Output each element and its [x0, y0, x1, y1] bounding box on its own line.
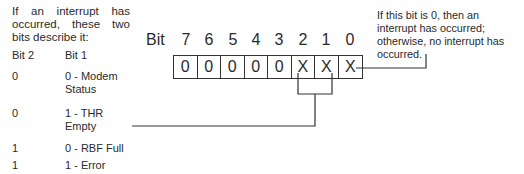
- bits-2-1-connector: [132, 94, 315, 126]
- bit0-connector: [356, 54, 426, 68]
- bits-2-1-bracket: [298, 73, 332, 94]
- connector-lines: [0, 0, 524, 174]
